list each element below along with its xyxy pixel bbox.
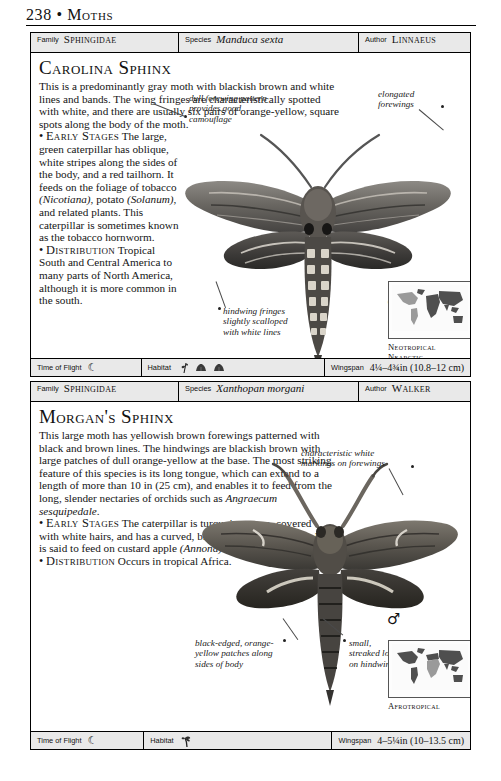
species-value: Xanthopan morgani <box>216 382 304 394</box>
family-cell: Family Sphingidae <box>31 382 179 401</box>
region-label-0: Neotropical <box>388 342 470 352</box>
species-common-name: Morgan's Sphinx <box>39 406 174 428</box>
family-value: Sphingidae <box>64 33 117 45</box>
species-value: Manduca sexta <box>216 33 283 45</box>
early-italic-2: (Solanum) <box>127 193 174 205</box>
annotation-hindwing-dot <box>218 307 221 310</box>
wingspan-label: Wingspan <box>338 736 371 745</box>
early-bullet: • <box>39 129 43 143</box>
annotation-white-markings: characteristic white markings on forewin… <box>301 448 409 469</box>
annotation-orange-patches: black-edged, orange-yellow patches along… <box>195 638 279 669</box>
world-map-icon <box>392 644 468 690</box>
entry-footer-bar: Time of Flight ☾ Habitat <box>31 358 470 376</box>
species-common-name: Carolina Sphinx <box>39 57 171 79</box>
entry-footer-bar: Time of Flight ☾ Habitat Wingspan 4–5¼in… <box>31 731 470 749</box>
wingspan-cell: Wingspan 4¼–4¾in (10.8–12 cm) <box>325 359 470 376</box>
annotation-camouflage: dull forewing pattern provides good camo… <box>189 93 277 124</box>
shrub-icon <box>195 363 207 372</box>
page-header: 238 • Moths <box>26 6 476 26</box>
annotation-forewings-dot <box>441 105 444 108</box>
author-label: Author <box>365 384 387 393</box>
page-header-text: 238 • Moths <box>26 6 476 24</box>
habitat-label: Habitat <box>150 736 173 745</box>
species-label: Species <box>185 384 211 393</box>
page-folio: 238 <box>26 6 52 23</box>
plant-sprig-icon <box>177 361 189 374</box>
habitat-cell: Habitat <box>142 359 325 376</box>
species-entry-morgans-sphinx: Family Sphingidae Species Xanthopan morg… <box>30 381 471 750</box>
early-stages-label: Early Stages <box>46 129 119 143</box>
distribution-map-frame <box>388 640 470 698</box>
field-guide-page: 238 • Moths Family Sphingidae Species Ma… <box>0 0 501 781</box>
species-cell: Species Xanthopan morgani <box>179 382 359 401</box>
distribution-paragraph: • Distribution Tropical South and Centra… <box>39 244 181 307</box>
annotation-hindwing-fringes: hindwing fringes slightly scalloped with… <box>223 306 299 337</box>
family-label: Family <box>37 35 59 44</box>
male-symbol: ♂ <box>387 610 400 628</box>
family-label: Family <box>37 384 59 393</box>
distribution-label: Distribution <box>46 243 115 257</box>
time-of-flight-cell: Time of Flight ☾ <box>31 732 144 749</box>
wingspan-value: 4–5¼in (10–13.5 cm) <box>377 735 464 746</box>
family-cell: Family Sphingidae <box>31 33 179 52</box>
early-bullet: • <box>39 516 43 530</box>
species-cell: Species Manduca sexta <box>179 33 359 52</box>
author-value: Walker <box>392 382 431 394</box>
distribution-label: Distribution <box>46 554 115 568</box>
early-stages-label: Early Stages <box>46 516 119 530</box>
distribution-map-frame <box>388 281 470 339</box>
species-id-bar: Family Sphingidae Species Xanthopan morg… <box>31 382 470 402</box>
shrub-icon <box>213 363 225 372</box>
annotation-streaked-lobe-dot <box>343 639 346 642</box>
time-of-flight-label: Time of Flight <box>37 363 82 372</box>
author-label: Author <box>365 35 387 44</box>
entry-body: Morgan's Sphinx This large moth has yell… <box>31 402 470 731</box>
world-map-icon <box>392 285 468 331</box>
region-label-0: Afrotropical <box>388 701 470 711</box>
distribution-bullet: • <box>39 243 43 257</box>
species-entry-carolina-sphinx: Family Sphingidae Species Manduca sexta … <box>30 32 471 377</box>
author-value: Linnaeus <box>392 33 436 45</box>
distribution-map-block: Neotropical Nearctic <box>388 281 470 358</box>
time-of-flight-cell: Time of Flight ☾ <box>31 359 142 376</box>
time-of-flight-label: Time of Flight <box>37 736 82 745</box>
palm-tree-icon <box>180 734 194 748</box>
distribution-bullet: • <box>39 554 43 568</box>
wingspan-cell: Wingspan 4–5¼in (10–13.5 cm) <box>332 732 470 749</box>
family-value: Sphingidae <box>64 382 117 394</box>
annotation-orange-patches-dot <box>283 639 286 642</box>
species-id-bar: Family Sphingidae Species Manduca sexta … <box>31 33 470 53</box>
crescent-moon-icon: ☾ <box>88 361 98 374</box>
wingspan-label: Wingspan <box>331 363 364 372</box>
early-italic-1: (Nicotiana) <box>39 193 91 205</box>
early-text-2: , potato <box>91 193 127 205</box>
page-section-title: Moths <box>67 6 113 23</box>
entry-body: Carolina Sphinx This is a predominantly … <box>31 53 470 358</box>
intro-text-2: . <box>97 505 100 517</box>
early-stages-paragraph: • Early Stages The large, green caterpil… <box>39 130 181 243</box>
annotation-white-markings-dot <box>411 465 414 468</box>
habitat-cell: Habitat <box>144 732 332 749</box>
page-separator: • <box>56 6 62 23</box>
header-rule <box>26 25 476 26</box>
distribution-map-block: Afrotropical <box>388 640 470 711</box>
crescent-moon-icon: ☾ <box>88 734 98 747</box>
author-cell: Author Linnaeus <box>359 33 470 52</box>
species-label: Species <box>185 35 211 44</box>
habitat-label: Habitat <box>148 363 171 372</box>
annotation-elongated-forewings: elongated forewings <box>378 89 450 110</box>
wingspan-value: 4¼–4¾in (10.8–12 cm) <box>370 362 464 373</box>
author-cell: Author Walker <box>359 382 470 401</box>
